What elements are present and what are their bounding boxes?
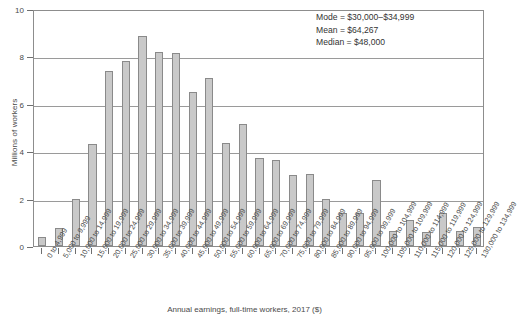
y-axis-tick-label: 8 [2,53,24,62]
x-axis-tick [125,248,126,254]
gridline [34,58,483,59]
y-axis-tick-label: 2 [2,195,24,204]
gridline [34,106,483,107]
x-axis-tick [409,248,410,254]
annotation-mean: Mean = $64,267 [316,24,414,37]
y-axis-title: Millions of workers [10,63,19,203]
x-axis-tick [242,248,243,254]
y-axis-tick-label: 6 [2,100,24,109]
y-axis-tick-label: 4 [2,148,24,157]
x-axis-title: Annual earnings, full-time workers, 2017… [0,305,489,314]
gridline [34,153,483,154]
x-axis-tick [459,248,460,254]
summary-statistics-annotation: Mode = $30,000–$34,999 Mean = $64,267 Me… [316,11,414,49]
annotation-median: Median = $48,000 [316,36,414,49]
bar [38,237,46,246]
y-axis-tick [27,247,33,248]
annotation-mode: Mode = $30,000–$34,999 [316,11,414,24]
y-axis-tick-label: 10 [2,6,24,15]
x-axis-tick [41,248,42,254]
y-axis-tick-label: 0 [2,243,24,252]
x-axis-tick [175,248,176,254]
x-axis-tick [292,248,293,254]
